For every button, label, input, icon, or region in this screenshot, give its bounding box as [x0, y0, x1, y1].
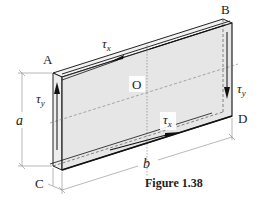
tau-subscript: x — [167, 119, 172, 129]
stress-label-tau-y-right: τy — [237, 81, 246, 98]
dim-b-line-right — [158, 137, 232, 160]
tau-subscript: y — [241, 88, 246, 98]
dim-c-leader — [48, 184, 62, 190]
stress-label-tau-y-left: τy — [36, 91, 45, 108]
corner-label-d: D — [238, 111, 247, 126]
center-label-o: O — [132, 77, 141, 92]
stress-label-tau-x-top: τx — [102, 36, 111, 53]
dim-b-line-left — [62, 166, 138, 190]
dimension-label-a: a — [16, 113, 23, 128]
tau-subscript: x — [106, 43, 111, 53]
dimension-label-b: b — [143, 156, 150, 171]
corner-label-c: C — [35, 176, 44, 191]
tau-subscript: y — [40, 98, 45, 108]
corner-label-b: B — [221, 2, 230, 17]
figure-caption: Figure 1.38 — [145, 176, 203, 190]
corner-label-a: A — [43, 52, 53, 67]
shear-panel-figure: A B C D O a b τx τx τy τy Figure 1.38 — [0, 0, 264, 207]
